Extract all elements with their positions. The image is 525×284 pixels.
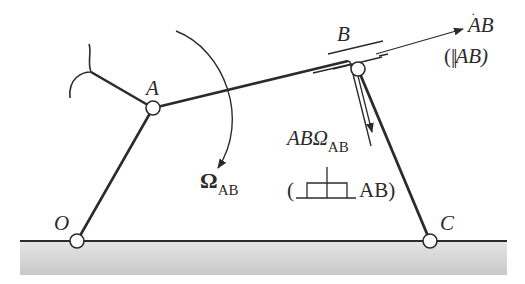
link-BC [358, 69, 430, 241]
label-perp-ref: AB) [359, 180, 395, 201]
break-mark [70, 44, 91, 98]
joint-O [70, 234, 84, 248]
omega-subscript: AB [218, 182, 239, 198]
label-cross-term: ABΩAB [287, 128, 349, 149]
label-A: A [146, 78, 159, 99]
dot-accent: ˙ [471, 12, 476, 26]
label-C: C [440, 213, 454, 234]
label-O: O [54, 213, 69, 234]
joint-C [423, 234, 437, 248]
diagram-drawing [0, 0, 525, 284]
cross-term-subscript: AB [328, 139, 349, 155]
joint-B [351, 62, 365, 76]
label-perp-paren-open: ( [287, 180, 294, 201]
label-B: B [337, 24, 350, 45]
link-AB [153, 61, 348, 108]
parallel-ref: AB) [455, 44, 488, 68]
perpendicular-symbol [296, 167, 356, 198]
link-A-extension [91, 72, 153, 108]
link-OA [77, 108, 153, 241]
cross-term-text: ABΩ [287, 126, 328, 150]
joint-A [146, 101, 160, 115]
linkage-diagram: O A B C ΩAB AB ˙ (||AB) ABΩAB ( AB) [0, 0, 525, 284]
paren-open: ( [444, 44, 451, 68]
label-parallel-AB: (||AB) [444, 46, 488, 67]
omega-symbol: Ω [200, 168, 218, 193]
label-omega-AB: ΩAB [200, 170, 238, 192]
